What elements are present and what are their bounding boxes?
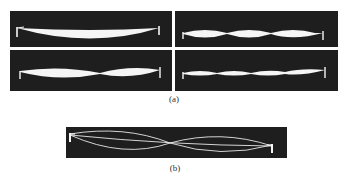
panel-superposition [66, 127, 287, 158]
string-mode-2-image [10, 50, 172, 91]
string-mode-1-image [10, 11, 172, 47]
caption-b: (b) [160, 163, 190, 173]
panel-mode-2 [10, 50, 172, 91]
caption-a: (a) [159, 94, 189, 104]
string-mode-4-image [175, 50, 338, 91]
string-superposition-image [66, 127, 287, 158]
panel-mode-1 [10, 11, 172, 47]
panel-mode-3 [175, 11, 338, 47]
panel-mode-4 [175, 50, 338, 91]
string-mode-3-image [175, 11, 338, 47]
